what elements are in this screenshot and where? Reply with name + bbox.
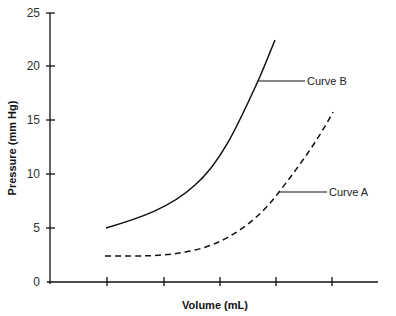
curve-a-line (105, 112, 333, 256)
y-axis-title: Pressure (mm Hg) (6, 100, 18, 195)
curve-b-line (106, 40, 275, 228)
curve-a-label: Curve A (329, 186, 369, 198)
y-tick-label: 20 (27, 59, 41, 73)
curve-b-label: Curve B (307, 75, 347, 87)
y-tick-label: 15 (27, 113, 41, 127)
chart-canvas: 25 20 15 10 5 0 Volume (mL) Pressure (mm… (0, 0, 396, 316)
y-tick-label: 5 (33, 221, 40, 235)
x-axis-title: Volume (mL) (182, 299, 248, 311)
y-tick-labels: 25 20 15 10 5 0 (27, 6, 41, 289)
y-tick-label: 0 (33, 275, 40, 289)
y-tick-label: 10 (27, 167, 41, 181)
y-tick-label: 25 (27, 6, 41, 20)
